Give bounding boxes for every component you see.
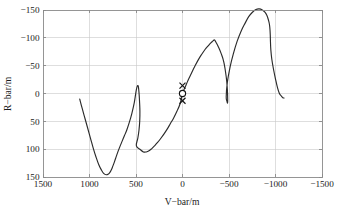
chart-plot: 150010005000−500−1000−1500 −150−100−5005… bbox=[0, 0, 339, 211]
y-tick-label: 0 bbox=[35, 89, 40, 99]
x-tick-label: −1000 bbox=[264, 179, 288, 189]
x-tick-label: 1000 bbox=[80, 179, 99, 189]
y-tick-label: −150 bbox=[21, 5, 40, 15]
y-tick-labels: −150−100−50050100150 bbox=[21, 5, 40, 182]
y-tick-label: −50 bbox=[25, 61, 40, 71]
y-tick-label: −100 bbox=[21, 33, 40, 43]
x-tick-label: 500 bbox=[129, 179, 143, 189]
y-tick-label: 50 bbox=[30, 117, 40, 127]
x-axis-title: V−bar/m bbox=[165, 196, 200, 207]
y-axis-title: R−bar/m bbox=[2, 76, 13, 111]
figure-canvas: 150010005000−500−1000−1500 −150−100−5005… bbox=[0, 0, 339, 211]
circle-marker-origin bbox=[179, 90, 185, 96]
x-tick-labels: 150010005000−500−1000−1500 bbox=[34, 179, 334, 189]
y-tick-label: 150 bbox=[26, 172, 40, 182]
x-tick-label: −1500 bbox=[310, 179, 334, 189]
y-tick-label: 100 bbox=[26, 144, 40, 154]
x-tick-label: −500 bbox=[220, 179, 239, 189]
x-tick-label: 0 bbox=[180, 179, 185, 189]
